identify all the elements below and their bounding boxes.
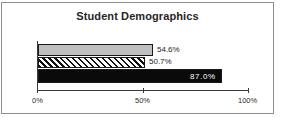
- x-tick-100: [248, 88, 249, 93]
- bar-label-series-2: 50.7%: [149, 57, 172, 66]
- x-tick-label-50: 50%: [135, 96, 150, 105]
- x-tick-0: [37, 88, 38, 93]
- bar-label-series-1: 54.6%: [157, 45, 180, 54]
- bar-label-series-3: 87.0%: [190, 72, 216, 81]
- chart-screenshot: Student Demographics 54.6% 50.7% 87.0% 0…: [0, 0, 291, 117]
- bar-series-2: [38, 57, 145, 68]
- chart-title: Student Demographics: [0, 10, 275, 22]
- bar-series-1: [38, 44, 153, 56]
- x-tick-label-100: 100%: [238, 96, 257, 105]
- x-tick-50: [143, 88, 144, 93]
- x-tick-label-0: 0%: [32, 96, 43, 105]
